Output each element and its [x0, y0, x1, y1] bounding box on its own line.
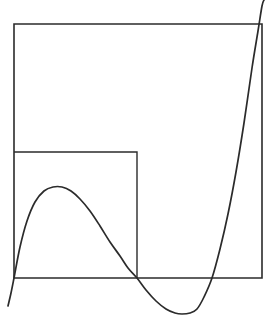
- cubic-curve-figure: [0, 0, 270, 323]
- figure-canvas: [0, 0, 270, 323]
